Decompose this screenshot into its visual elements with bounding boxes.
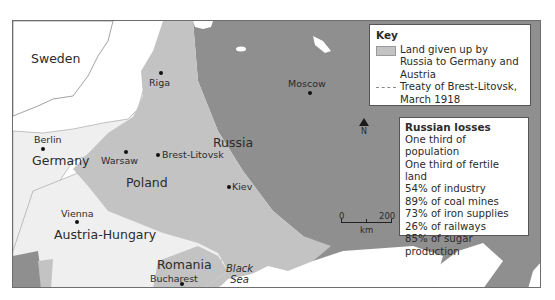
label-austria-hungary: Austria-Hungary [54, 229, 156, 242]
scale-bar: 0 200 km [337, 211, 397, 235]
label-warsaw: Warsaw [101, 156, 138, 166]
loss-item: 89% of coal mines [405, 196, 523, 208]
key-item-treaty-line: Treaty of Brest-Litovsk, March 1918 [376, 81, 524, 106]
label-riga: Riga [149, 78, 170, 88]
map-key: Key Land given up by Russia to Germany a… [369, 24, 531, 106]
loss-item: 54% of industry [405, 183, 523, 195]
north-label: N [359, 127, 369, 136]
scale-tick [341, 219, 342, 223]
black-sea-line1: Black [226, 263, 253, 274]
scale-tick [391, 219, 392, 223]
label-kiev: Kiev [232, 182, 252, 192]
label-black-sea: Black Sea [226, 263, 253, 285]
label-russia: Russia [213, 137, 253, 150]
black-sea-line2: Sea [226, 274, 253, 285]
scale-unit: km [360, 225, 373, 235]
lake-peipus [236, 47, 246, 52]
label-romania: Romania [157, 259, 212, 272]
key-item-label: Land given up by Russia to Germany and A… [400, 44, 524, 81]
losses-title: Russian losses [405, 121, 523, 134]
key-title: Key [376, 29, 524, 42]
north-indicator: N [359, 118, 369, 136]
north-arrow-icon [359, 118, 369, 126]
dashed-line-icon [376, 87, 396, 88]
balkans-land [13, 251, 43, 288]
loss-item: 26% of railways [405, 221, 523, 233]
label-brest-litovsk: Brest-Litovsk [162, 150, 224, 160]
label-vienna: Vienna [61, 209, 94, 219]
city-dot-vienna [75, 220, 79, 224]
key-item-label: Treaty of Brest-Litovsk, March 1918 [400, 81, 524, 106]
key-item-ceded-land: Land given up by Russia to Germany and A… [376, 44, 524, 81]
scale-tick [366, 219, 367, 223]
label-poland: Poland [126, 177, 168, 190]
city-dot-riga [159, 71, 163, 75]
label-sweden: Sweden [31, 53, 80, 66]
label-bucharest: Bucharest [150, 274, 198, 284]
loss-item: 73% of iron supplies [405, 208, 523, 220]
scale-end: 200 [379, 211, 395, 221]
loss-item: 85% of sugar production [405, 233, 523, 258]
russian-losses-box: Russian losses One third of population O… [399, 117, 529, 236]
city-dot-moscow [308, 91, 312, 95]
loss-item: One third of population [405, 134, 523, 159]
loss-item: One third of fertile land [405, 159, 523, 184]
city-dot-brest-litovsk [156, 153, 160, 157]
label-berlin: Berlin [34, 135, 62, 145]
city-dot-berlin [41, 147, 45, 151]
grey-swatch-icon [376, 46, 396, 56]
city-dot-bucharest [180, 282, 184, 286]
city-dot-warsaw [124, 150, 128, 154]
label-moscow: Moscow [288, 79, 326, 89]
city-dot-kiev [227, 185, 231, 189]
label-germany: Germany [32, 155, 89, 168]
